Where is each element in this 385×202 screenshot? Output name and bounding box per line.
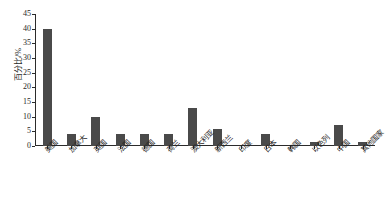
bars-layer <box>35 14 375 146</box>
y-axis-tick-labels: 051015202530354045 <box>16 14 31 146</box>
bar <box>43 29 52 146</box>
y-tick-mark <box>32 102 35 103</box>
x-axis-category-labels: 美国加拿大英国法国德国荷兰澳大利亚新西兰印度日本韩国以色列中国其他国家 <box>35 148 375 202</box>
y-tick-label: 0 <box>16 142 31 150</box>
y-tick-mark <box>32 14 35 15</box>
y-tick-label: 10 <box>16 113 31 121</box>
y-tick-mark <box>32 146 35 147</box>
y-tick-label: 5 <box>16 127 31 135</box>
plot-area <box>35 14 375 146</box>
y-tick-mark <box>32 29 35 30</box>
bar-chart: 百分比/% 051015202530354045 美国加拿大英国法国德国荷兰澳大… <box>0 0 385 202</box>
y-tick-mark <box>32 131 35 132</box>
y-tick-label: 20 <box>16 83 31 91</box>
y-tick-label: 15 <box>16 98 31 106</box>
y-tick-mark <box>32 73 35 74</box>
y-tick-label: 40 <box>16 25 31 33</box>
y-tick-mark <box>32 117 35 118</box>
y-tick-label: 30 <box>16 54 31 62</box>
y-tick-mark <box>32 43 35 44</box>
y-tick-label: 35 <box>16 39 31 47</box>
y-tick-label: 45 <box>16 10 31 18</box>
y-tick-mark <box>32 87 35 88</box>
y-tick-label: 25 <box>16 69 31 77</box>
y-tick-mark <box>32 58 35 59</box>
